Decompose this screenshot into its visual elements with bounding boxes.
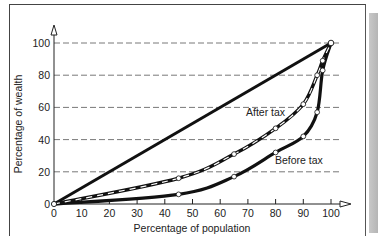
before-tax-marker	[320, 68, 325, 73]
after-tax-marker	[232, 152, 237, 157]
x-axis-title: Percentage of population	[134, 222, 251, 234]
x-tick-label: 70	[242, 207, 254, 219]
lorenz-chart: 0102030405060708090100020406080100 Perce…	[0, 0, 383, 243]
data-series	[51, 40, 333, 206]
after-tax-marker	[176, 176, 181, 181]
y-tick-label: 60	[38, 101, 50, 113]
x-tick-label: 10	[76, 207, 88, 219]
y-axis-arrow-icon	[51, 25, 57, 35]
equality-line	[54, 43, 331, 204]
y-tick-label: 100	[32, 37, 50, 49]
after-tax-marker	[315, 73, 320, 78]
y-axis-title: Percentage of wealth	[12, 75, 24, 174]
before-tax-label: Before tax	[275, 154, 324, 166]
endpoint-marker	[328, 40, 334, 46]
before-tax-marker	[315, 110, 320, 115]
x-tick-label: 80	[270, 207, 282, 219]
origin-marker	[51, 201, 56, 206]
x-tick-label: 40	[159, 207, 171, 219]
after-tax-marker	[320, 58, 325, 63]
x-tick-label: 30	[131, 207, 143, 219]
y-tick-label: 40	[38, 134, 50, 146]
before-tax-marker	[176, 192, 181, 197]
x-tick-label: 100	[322, 207, 340, 219]
y-tick-label: 20	[38, 166, 50, 178]
x-axis-arrow-icon	[340, 201, 351, 207]
before-tax-marker	[301, 134, 306, 139]
y-tick-label: 0	[44, 198, 50, 210]
x-tick-label: 50	[187, 207, 199, 219]
x-tick-label: 0	[51, 207, 57, 219]
x-tick-label: 90	[297, 207, 309, 219]
after-tax-marker	[273, 126, 278, 131]
after-tax-label: After tax	[246, 106, 286, 118]
x-tick-label: 60	[214, 207, 226, 219]
x-tick-label: 20	[104, 207, 116, 219]
after-tax-marker	[301, 102, 306, 107]
y-tick-label: 80	[38, 69, 50, 81]
before-tax-marker	[232, 174, 237, 179]
